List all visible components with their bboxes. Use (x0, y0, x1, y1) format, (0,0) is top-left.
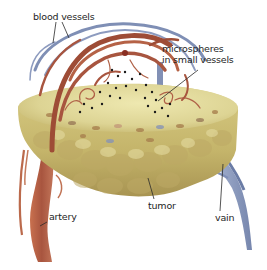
label-microspheres-line1: microspheres (162, 43, 234, 54)
leader-blood-vessels-2 (62, 22, 69, 38)
label-artery: artery (49, 211, 77, 222)
leader-blood-vessels-1 (53, 22, 56, 43)
label-blood-vessels: blood vessels (33, 11, 95, 22)
label-vein: vain (215, 212, 234, 223)
tumor-diagram: blood vessels microspheres in small vess… (0, 0, 267, 270)
label-tumor: tumor (148, 200, 176, 211)
label-microspheres: microspheres in small vessels (162, 43, 234, 65)
diagram-illustration (0, 0, 267, 270)
label-microspheres-line2: in small vessels (162, 54, 234, 65)
